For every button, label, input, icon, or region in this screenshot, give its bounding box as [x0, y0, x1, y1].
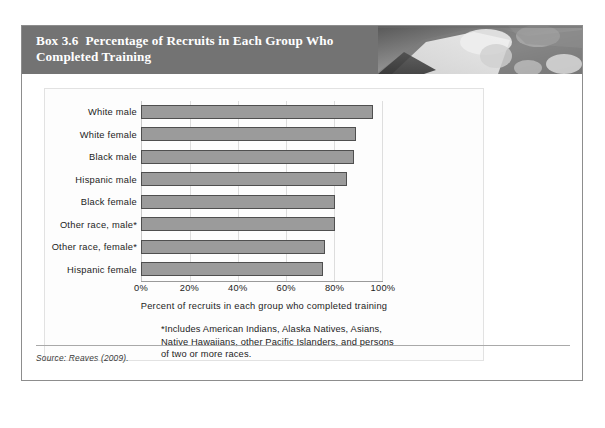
chart-bar-row — [141, 146, 383, 169]
chart-footnote: *Includes American Indians, Alaska Nativ… — [161, 323, 473, 361]
chart-x-axis-title: Percent of recruits in each group who co… — [45, 301, 483, 311]
source-line: Source: Reaves (2009). — [36, 353, 129, 363]
chart-bar — [141, 195, 335, 209]
chart-x-tick-labels: 0% 20% 40% 60% 80% 100% — [141, 283, 383, 297]
chart-category-labels: White male White female Black male Hispa… — [45, 101, 137, 281]
category-label: White male — [45, 101, 137, 124]
chart-bar-row — [141, 214, 383, 237]
box-title-text: Percentage of Recruits in Each Group Who… — [36, 33, 333, 64]
chart-bar — [141, 217, 335, 231]
x-tick-label: 100% — [371, 283, 396, 293]
chart-bar — [141, 105, 373, 119]
footnote-line-3: of two or more races. — [161, 348, 473, 361]
chart-bar — [141, 262, 323, 276]
chart-bar — [141, 172, 347, 186]
x-tick-label: 20% — [180, 283, 199, 293]
category-label: White female — [45, 124, 137, 147]
chart-bar-row — [141, 259, 383, 282]
category-label: Other race, female* — [45, 236, 137, 259]
chart-bar — [141, 240, 325, 254]
x-tick-label: 0% — [134, 283, 148, 293]
chart-bar — [141, 150, 354, 164]
chart-plot-area — [141, 101, 383, 281]
category-label: Hispanic female — [45, 259, 137, 282]
box-title: Box 3.6Percentage of Recruits in Each Gr… — [36, 33, 366, 65]
box-header: Box 3.6Percentage of Recruits in Each Gr… — [22, 26, 582, 74]
category-label: Hispanic male — [45, 169, 137, 192]
x-tick-label: 80% — [325, 283, 344, 293]
page-root: Box 3.6Percentage of Recruits in Each Gr… — [0, 0, 605, 428]
box-number: Box 3.6 — [36, 33, 78, 48]
footnote-line-1: *Includes American Indians, Alaska Nativ… — [161, 323, 473, 336]
chart-bar-row — [141, 101, 383, 124]
chart-bar — [141, 127, 356, 141]
footnote-line-2: Native Hawaiians, other Pacific Islander… — [161, 336, 473, 349]
category-label: Black male — [45, 146, 137, 169]
source-divider — [36, 345, 570, 346]
category-label: Other race, male* — [45, 214, 137, 237]
chart-bar-row — [141, 124, 383, 147]
chart-bar-row — [141, 169, 383, 192]
chart-bar-row — [141, 191, 383, 214]
x-tick-label: 60% — [277, 283, 296, 293]
category-label: Black female — [45, 191, 137, 214]
chart-card: White male White female Black male Hispa… — [44, 88, 484, 361]
chart-bars — [141, 101, 383, 281]
x-axis-line — [141, 281, 383, 282]
x-tick-label: 40% — [228, 283, 247, 293]
box-container: Box 3.6Percentage of Recruits in Each Gr… — [21, 25, 583, 381]
chart-bar-row — [141, 236, 383, 259]
header-photo-image — [378, 26, 582, 74]
header-photo — [378, 26, 582, 74]
